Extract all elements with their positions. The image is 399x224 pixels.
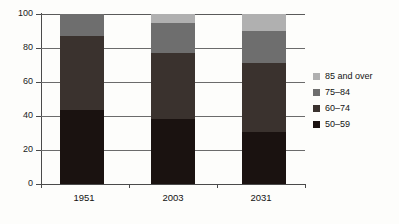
bar-segment-2031-85-and-over — [242, 14, 286, 31]
bar-segment-2003-75-84 — [151, 23, 195, 54]
x-axis-line — [41, 184, 306, 185]
bar-segment-1951-75-84 — [60, 14, 104, 36]
y-axis-labels: 100 80 60 40 20 0 — [0, 0, 33, 224]
legend-label-50-59: 50–59 — [325, 119, 350, 129]
x-tick-label-2003: 2003 — [144, 192, 202, 203]
plot-area — [41, 14, 305, 184]
y-tick-label-100: 100 — [3, 9, 33, 18]
bar-segment-2003-60-74 — [151, 53, 195, 119]
legend-swatch-icon-60-74 — [313, 105, 320, 112]
legend-label-60-74: 60–74 — [325, 103, 350, 113]
bar-segment-2031-75-84 — [242, 31, 286, 63]
bar-segment-2003-50-59 — [151, 119, 195, 184]
bar-segment-1951-50-59 — [60, 110, 104, 184]
x-tick-label-2031: 2031 — [232, 192, 290, 203]
legend-item-85-and-over: 85 and over — [313, 68, 397, 84]
legend-item-60-74: 60–74 — [313, 100, 397, 116]
x-tick-mark-3 — [305, 184, 306, 188]
x-tick-mark-2 — [217, 184, 218, 188]
legend-label-85-and-over: 85 and over — [325, 71, 373, 81]
x-tick-mark-0 — [41, 184, 42, 188]
legend-item-50-59: 50–59 — [313, 116, 397, 132]
legend-swatch-icon-50-59 — [313, 121, 320, 128]
legend-label-75-84: 75–84 — [325, 87, 350, 97]
stacked-bar-chart-figure: 100 80 60 40 20 0 — [0, 0, 399, 224]
bar-segment-1951-60-74 — [60, 36, 104, 110]
chart-legend: 85 and over 75–84 60–74 50–59 — [313, 68, 397, 132]
legend-item-75-84: 75–84 — [313, 84, 397, 100]
legend-swatch-icon-85-and-over — [313, 73, 320, 80]
bar-segment-2031-60-74 — [242, 63, 286, 132]
bar-segment-2031-50-59 — [242, 132, 286, 184]
bar-segment-2003-85-and-over — [151, 14, 195, 23]
y-tick-label-60: 60 — [3, 77, 33, 86]
x-tick-mark-1 — [129, 184, 130, 188]
y-tick-label-80: 80 — [3, 43, 33, 52]
y-tick-label-20: 20 — [3, 145, 33, 154]
x-tick-label-1951: 1951 — [55, 192, 113, 203]
y-tick-label-40: 40 — [3, 111, 33, 120]
legend-swatch-icon-75-84 — [313, 89, 320, 96]
y-tick-label-0: 0 — [3, 179, 33, 188]
